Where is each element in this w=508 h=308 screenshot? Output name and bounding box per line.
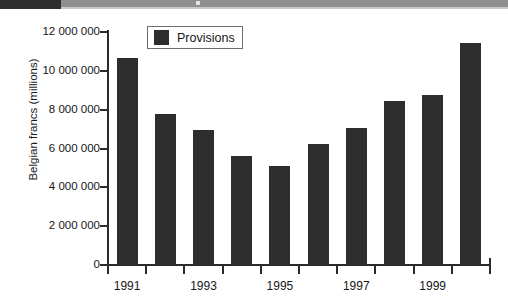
x-axis-tick (413, 266, 415, 274)
bar-1993 (193, 130, 214, 265)
scan-band-speck (196, 1, 200, 5)
legend-swatch-provisions (154, 30, 169, 45)
scan-artifact-band (0, 0, 508, 9)
x-axis-tick (183, 266, 185, 274)
x-axis-tick (222, 266, 224, 274)
bar-1991 (117, 58, 138, 265)
x-axis-tick (374, 266, 376, 274)
x-axis-tick-label-1993: 1993 (174, 279, 234, 293)
x-axis-tick (145, 266, 147, 274)
bar-1996 (308, 144, 329, 265)
x-axis-tick (298, 266, 300, 274)
bar-series-layer (0, 9, 508, 265)
bar-1994 (231, 156, 252, 265)
x-axis-tick (489, 266, 491, 274)
x-axis-tick-label-1991: 1991 (97, 279, 157, 293)
x-axis-tick (336, 266, 338, 274)
bar-1992 (155, 114, 176, 265)
bar-chart-figure: Belgian francs (millions) 02 000 0004 00… (0, 9, 508, 308)
x-axis-tick (451, 266, 453, 274)
x-axis-tick-label-1999: 1999 (403, 279, 463, 293)
bar-1999 (422, 95, 443, 265)
bar-1995 (269, 166, 290, 265)
bar-2000 (460, 43, 481, 265)
scan-band-light-segment (61, 0, 508, 7)
x-axis-tick (107, 266, 109, 274)
bar-1997 (346, 128, 367, 265)
legend-label-provisions: Provisions (177, 31, 235, 45)
x-axis-tick (260, 266, 262, 274)
x-axis-tick-label-1995: 1995 (250, 279, 310, 293)
bar-1998 (384, 101, 405, 265)
chart-legend: Provisions (147, 26, 243, 49)
x-axis-tick-label-1997: 1997 (326, 279, 386, 293)
scan-band-dark-segment (0, 0, 61, 9)
